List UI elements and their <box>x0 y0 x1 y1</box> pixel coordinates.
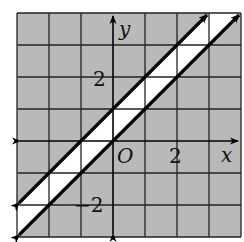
y-axis-label: y <box>118 17 131 41</box>
origin-label: O <box>117 144 133 168</box>
x-tick-label-2: 2 <box>169 144 182 168</box>
x-axis-label: x <box>221 143 232 167</box>
coordinate-graph: y x O 2 2 −2 <box>0 0 244 242</box>
y-tick-label-neg2: −2 <box>74 193 103 217</box>
y-tick-label-2: 2 <box>93 67 106 91</box>
